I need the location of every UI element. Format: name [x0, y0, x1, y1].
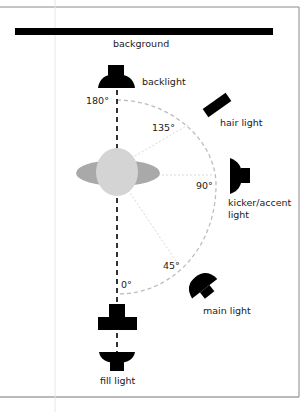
hair-light-icon: [203, 93, 232, 117]
angle-90-label: 90°: [196, 180, 213, 191]
kicker-light-icon: [230, 158, 250, 194]
angle-45-label: 45°: [163, 260, 180, 271]
hair-light-label: hair light: [220, 117, 263, 128]
backlight-icon: [98, 65, 135, 88]
angle-135-label: 135°: [152, 122, 175, 133]
kicker-label-line2: light: [228, 209, 249, 220]
camera-icon: [98, 304, 137, 330]
lighting-diagram: background backlight hair light kicker/a…: [0, 0, 306, 412]
background-label: background: [113, 38, 169, 49]
angle-180-label: 180°: [86, 95, 109, 106]
main-light-icon: [183, 267, 222, 305]
subject-head: [96, 148, 138, 196]
fill-light-icon: [99, 352, 135, 371]
main-light-label: main light: [203, 305, 251, 316]
angle-0-label: 0°: [121, 279, 132, 290]
background-bar: [15, 28, 273, 35]
backlight-label: backlight: [142, 76, 186, 87]
fill-light-label: fill light: [100, 375, 136, 386]
kicker-label-line1: kicker/accent: [228, 197, 292, 208]
